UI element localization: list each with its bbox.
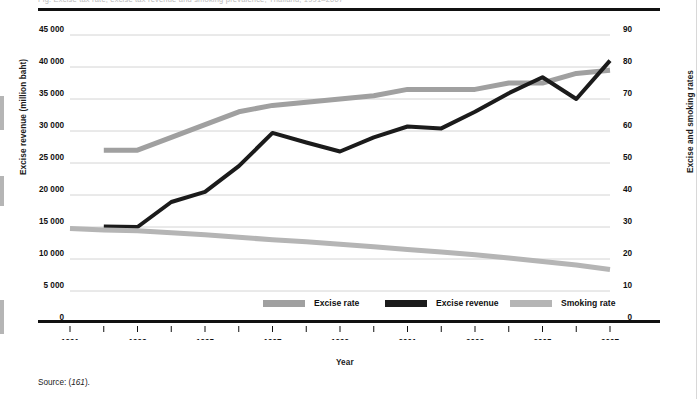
- figure-panel: Fig. Excise tax rate, excise tax revenue…: [0, 0, 697, 399]
- source-reference: 161: [71, 378, 85, 387]
- y-left-tick-label: 10 000: [39, 249, 64, 258]
- y-left-tick-labels: 05 00010 00015 00020 00025 00030 00035 0…: [39, 25, 64, 322]
- legend-label: Excise rate: [314, 298, 360, 308]
- y-left-tick-label: 30 000: [39, 121, 64, 130]
- y-left-tick-label: 20 000: [39, 185, 64, 194]
- series-lines: [70, 61, 610, 270]
- y-right-tick-labels: 0102030405060708090: [623, 25, 633, 322]
- source-note: Source: (161).: [38, 378, 90, 387]
- y-left-tick-label: 40 000: [39, 57, 64, 66]
- y-right-tick-label: 20: [623, 249, 633, 258]
- x-tick-label: 1993: [128, 338, 147, 340]
- x-tick-label: 1999: [331, 338, 350, 340]
- y-left-tick-label: 25 000: [39, 153, 64, 162]
- series-line-excise-revenue: [104, 61, 610, 227]
- y-left-tick-label: 5 000: [44, 281, 65, 290]
- series-line-smoking-rate: [70, 229, 610, 270]
- x-tick-label: 2001: [398, 338, 417, 340]
- y-left-tick-label: 15 000: [39, 217, 64, 226]
- y-right-tick-label: 90: [623, 25, 633, 34]
- top-rule: [38, 8, 660, 11]
- source-suffix: ).: [85, 378, 90, 387]
- gridlines: [70, 35, 610, 291]
- y-right-tick-label: 40: [623, 185, 633, 194]
- line-chart-plot: 05 00010 00015 00020 00025 00030 00035 0…: [0, 0, 697, 340]
- y-left-tick-label: 35 000: [39, 89, 64, 98]
- figure-caption-clipped: Fig. Excise tax rate, excise tax revenue…: [38, 0, 658, 4]
- x-tickmarks: [70, 326, 610, 332]
- x-axis-title: Year: [336, 358, 354, 367]
- bottom-rule: [38, 320, 660, 323]
- y-right-tick-label: 10: [623, 281, 633, 290]
- scan-gutter-artifact-2: [0, 176, 4, 206]
- y-right-tick-label: 60: [623, 121, 633, 130]
- y-right-tick-label: 70: [623, 89, 633, 98]
- legend-swatch: [385, 300, 427, 307]
- x-tick-labels: 199119931995199719992001200320052007: [61, 338, 620, 340]
- y-right-tick-label: 80: [623, 57, 633, 66]
- x-tick-label: 2007: [601, 338, 620, 340]
- y-left-tick-label: 45 000: [39, 25, 64, 34]
- scan-gutter-artifact-1: [0, 96, 4, 130]
- chart-legend: Excise rateExcise revenueSmoking rate: [263, 298, 616, 308]
- y-right-tick-label: 30: [623, 217, 633, 226]
- legend-swatch: [263, 300, 305, 307]
- y-axis-left-title: Excise revenue (million baht): [19, 59, 28, 175]
- source-prefix: Source: (: [38, 378, 71, 387]
- x-tick-label: 1991: [61, 338, 80, 340]
- legend-label: Excise revenue: [436, 298, 499, 308]
- x-tick-label: 2003: [466, 338, 485, 340]
- scan-gutter-artifact-3: [0, 300, 4, 334]
- x-tick-label: 1995: [196, 338, 215, 340]
- x-tick-label: 2005: [533, 338, 552, 340]
- y-right-tick-label: 50: [623, 153, 633, 162]
- y-axis-right-title: Excise and smoking rates: [686, 70, 695, 173]
- x-tick-label: 1997: [263, 338, 282, 340]
- legend-label: Smoking rate: [561, 298, 616, 308]
- legend-swatch: [510, 300, 552, 307]
